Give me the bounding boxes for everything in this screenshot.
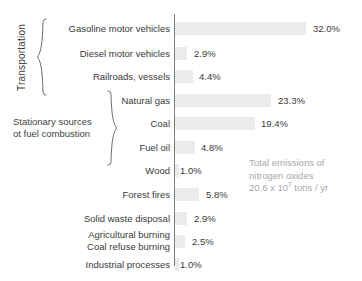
annotation-line-1: Total emissions of (249, 157, 359, 170)
bar-value-fuel-oil: 4.8% (201, 142, 223, 153)
bar-railroads-vessels (175, 70, 193, 83)
nitrogen-oxides-bar-chart: Transportation Stationary sources ot fue… (0, 0, 362, 281)
bar-value-solid-waste-disposal: 2.9% (194, 213, 216, 224)
bar-natural-gas (175, 94, 271, 107)
bar-fuel-oil (175, 141, 195, 154)
bar-value-diesel-motor-vehicles: 2.9% (194, 48, 216, 59)
bar-gasoline-motor-vehicles (175, 22, 306, 35)
bar-value-natural-gas: 23.3% (278, 95, 305, 106)
row-label-forest-fires: Forest fires (20, 189, 170, 200)
annotation-value-prefix: 20.6 x 10 (249, 182, 288, 193)
bar-agricultural-coal-refuse-burning (175, 235, 185, 248)
row-label-gasoline-motor-vehicles: Gasoline motor vehicles (20, 23, 170, 34)
row-label-industrial-processes: Industrial processes (20, 259, 170, 270)
total-emissions-annotation: Total emissions of nitrogen oxides 20.6 … (249, 157, 359, 195)
bar-value-industrial-processes: 1.0% (180, 259, 202, 270)
bar-coal (175, 117, 255, 130)
bar-value-gasoline-motor-vehicles: 32.0% (313, 23, 340, 34)
annotation-line-3: 20.6 x 107 tons / yr (249, 182, 359, 195)
bar-value-agricultural-coal-refuse-burning: 2.5% (192, 236, 214, 247)
annotation-value-suffix: tons / yr (292, 182, 328, 193)
bar-wood (175, 164, 179, 177)
row-label-diesel-motor-vehicles: Diesel motor vehicles (20, 48, 170, 59)
bar-forest-fires (175, 188, 199, 201)
bar-solid-waste-disposal (175, 212, 187, 225)
row-label-coal-refuse-burning: Coal refuse burning (20, 241, 170, 253)
row-label-solid-waste-disposal: Solid waste disposal (20, 213, 170, 224)
bar-value-wood: 1.0% (180, 165, 202, 176)
bar-value-railroads-vessels: 4.4% (199, 71, 221, 82)
annotation-line-2: nitrogen oxides (249, 170, 359, 183)
row-label-fuel-oil: Fuel oil (20, 142, 170, 153)
bar-diesel-motor-vehicles (175, 47, 187, 60)
row-label-natural-gas: Natural gas (20, 95, 170, 106)
row-label-agricultural-burning: Agricultural burning (20, 229, 170, 241)
row-label-coal: Coal (20, 118, 170, 129)
bar-value-coal: 19.4% (261, 118, 288, 129)
row-label-railroads-vessels: Railroads, vessels (20, 71, 170, 82)
bar-value-forest-fires: 5.8% (206, 189, 228, 200)
bar-industrial-processes (175, 258, 179, 271)
row-label-wood: Wood (20, 165, 170, 176)
group-label-stationary-line2: ot fuel combustion (13, 128, 105, 140)
row-label-agricultural-coal-refuse-burning: Agricultural burning Coal refuse burning (20, 229, 170, 252)
